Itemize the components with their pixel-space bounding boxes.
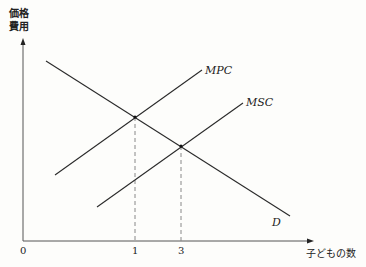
mpc-label: MPC	[204, 64, 233, 77]
intersection-point-mpc	[133, 115, 136, 118]
msc-curve	[97, 103, 243, 207]
y-axis-label-line1: 価格	[8, 7, 30, 19]
msc-label: MSC	[245, 96, 274, 109]
mpc-curve	[55, 70, 202, 175]
x-tick-1: 1	[132, 245, 138, 256]
intersection-point-msc	[179, 144, 182, 147]
x-axis-label: 子どもの数	[306, 247, 356, 259]
x-axis-arrow-icon	[307, 239, 314, 244]
origin-label: 0	[20, 245, 26, 256]
demand-curve-d	[46, 61, 290, 216]
x-tick-3: 3	[178, 245, 184, 256]
y-axis-arrow-icon	[21, 38, 26, 45]
supply-demand-chart: 価格 費用 MPC MSC D 0 1 3 子どもの数	[0, 0, 366, 267]
y-axis-label-line2: 費用	[9, 20, 29, 32]
d-label: D	[271, 216, 281, 229]
